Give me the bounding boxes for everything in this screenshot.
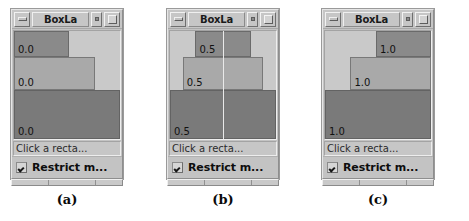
restrict-checkbox[interactable] [16, 162, 27, 173]
restrict-checkbox-row[interactable]: Restrict m... [323, 156, 433, 178]
small-box-icon[interactable] [247, 12, 258, 27]
restrict-checkbox-row[interactable]: Restrict m... [12, 156, 122, 178]
status-text: Click a recta... [169, 141, 277, 156]
caption-a: (a) [11, 192, 123, 207]
restrict-checkbox[interactable] [172, 162, 183, 173]
window-title: BoxLa [188, 12, 245, 27]
boxlayout-window-c: BoxLa 1.0 1.0 1.0 Click a recta... [322, 9, 434, 179]
rectangle-2[interactable]: 1.0 [350, 57, 431, 90]
figure-container: BoxLa 0.0 0.0 0.0 Click a recta... [0, 0, 469, 221]
window-title: BoxLa [343, 12, 400, 27]
window-frame: BoxLa 0.5 0.5 0.5 Click a recta... [167, 9, 279, 179]
maximize-icon[interactable] [415, 12, 431, 27]
restrict-checkbox[interactable] [327, 162, 338, 173]
center-alignment-line [223, 31, 224, 139]
restrict-checkbox-label: Restrict m... [32, 161, 107, 174]
maximize-icon[interactable] [260, 12, 276, 27]
title-bar[interactable]: BoxLa [323, 10, 433, 29]
alignment-value-label: 0.5 [171, 126, 190, 138]
rectangle-3[interactable]: 1.0 [325, 90, 431, 139]
alignment-value-label: 0.0 [15, 126, 34, 138]
alignment-value-label: 0.5 [184, 77, 203, 89]
alignment-value-label: 0.5 [196, 44, 215, 56]
window-frame: BoxLa 1.0 1.0 1.0 Click a recta... [322, 9, 434, 179]
minimize-icon[interactable] [325, 12, 341, 27]
restrict-checkbox-row[interactable]: Restrict m... [168, 156, 278, 178]
small-box-icon[interactable] [402, 12, 413, 27]
alignment-value-label: 0.0 [15, 77, 34, 89]
rectangle-3[interactable]: 0.0 [14, 90, 120, 139]
window-bottom-bar-a [11, 179, 123, 186]
alignment-value-label: 1.0 [351, 77, 370, 89]
boxlayout-canvas: 0.0 0.0 0.0 [13, 30, 121, 140]
status-text: Click a recta... [13, 141, 121, 156]
title-bar[interactable]: BoxLa [168, 10, 278, 29]
boxlayout-window-b: BoxLa 0.5 0.5 0.5 Click a recta... [167, 9, 279, 179]
alignment-value-label: 0.0 [15, 44, 34, 56]
window-frame: BoxLa 0.0 0.0 0.0 Click a recta... [11, 9, 123, 179]
window-bottom-bar-c [322, 179, 434, 186]
caption-c: (c) [322, 192, 434, 207]
rectangle-1[interactable]: 1.0 [376, 31, 431, 57]
restrict-checkbox-label: Restrict m... [343, 161, 418, 174]
title-bar[interactable]: BoxLa [12, 10, 122, 29]
rectangle-1[interactable]: 0.0 [14, 31, 69, 57]
status-text: Click a recta... [324, 141, 432, 156]
window-bottom-bar-b [167, 179, 279, 186]
maximize-icon[interactable] [104, 12, 120, 27]
minimize-icon[interactable] [170, 12, 186, 27]
restrict-checkbox-label: Restrict m... [188, 161, 263, 174]
small-box-icon[interactable] [91, 12, 102, 27]
alignment-value-label: 1.0 [326, 126, 345, 138]
boxlayout-window-a: BoxLa 0.0 0.0 0.0 Click a recta... [11, 9, 123, 179]
boxlayout-canvas: 1.0 1.0 1.0 [324, 30, 432, 140]
rectangle-2[interactable]: 0.0 [14, 57, 95, 90]
boxlayout-canvas: 0.5 0.5 0.5 [169, 30, 277, 140]
minimize-icon[interactable] [14, 12, 30, 27]
window-title: BoxLa [32, 12, 89, 27]
alignment-value-label: 1.0 [377, 44, 396, 56]
caption-b: (b) [167, 192, 279, 207]
